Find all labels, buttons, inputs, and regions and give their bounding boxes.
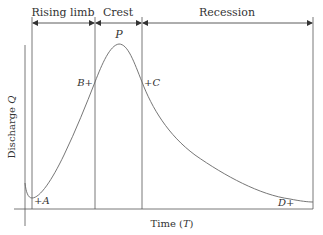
point-a-label: +A [34, 195, 50, 206]
recession-label: Recession [199, 6, 255, 19]
crest-label: Crest [103, 6, 134, 19]
y-axis-label: Discharge Q [6, 96, 17, 159]
point-c-label: +C [144, 77, 160, 88]
peak-label: P [114, 28, 123, 41]
x-axis-label: Time (T) [151, 218, 194, 229]
point-d-label: D+ [277, 197, 294, 208]
hydrograph-diagram: Rising limb Crest Recession P +A B+ +C D… [0, 0, 323, 235]
rising-limb-label: Rising limb [31, 6, 94, 19]
hydrograph-curve [25, 44, 313, 202]
point-b-label: B+ [76, 77, 93, 88]
